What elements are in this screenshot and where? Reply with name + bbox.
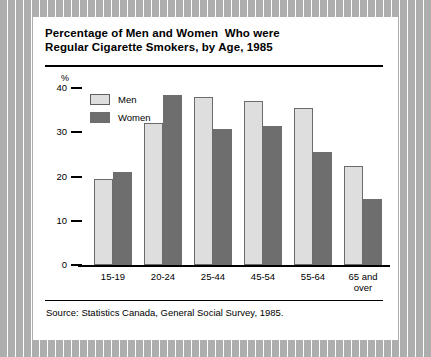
x-tick-label: 20-24 <box>135 271 191 282</box>
bars-layer <box>33 17 398 267</box>
legend: Men Women <box>90 91 151 127</box>
bar-men <box>294 108 313 265</box>
bar-women <box>113 172 132 265</box>
x-tick-label: 55-64 <box>285 271 341 282</box>
bar-men <box>94 179 113 265</box>
plot-area: 010203040 15-1920-2425-4445-5455-6465 an… <box>33 17 398 340</box>
bar-women <box>163 95 182 265</box>
source-note: Source: Statistics Canada, General Socia… <box>46 307 283 318</box>
chart-card: Percentage of Men and Women Who were Reg… <box>33 17 398 340</box>
bar-women <box>313 152 332 265</box>
legend-item-men: Men <box>90 91 151 107</box>
legend-swatch-women <box>90 112 110 123</box>
bar-women <box>213 129 232 265</box>
source-divider <box>45 300 383 301</box>
bar-men <box>344 166 363 265</box>
x-axis-baseline <box>78 265 390 267</box>
legend-swatch-men <box>90 94 110 105</box>
x-tick-label: 25-44 <box>185 271 241 282</box>
legend-label-women: Women <box>118 112 151 123</box>
figure-container: Percentage of Men and Women Who were Reg… <box>0 0 431 357</box>
bar-men <box>244 101 263 265</box>
x-tick-label: 65 andover <box>335 271 391 293</box>
bar-men <box>194 97 213 265</box>
bar-women <box>363 199 382 265</box>
x-tick-label: 45-54 <box>235 271 291 282</box>
bar-women <box>263 126 282 265</box>
legend-label-men: Men <box>118 94 136 105</box>
bar-men <box>144 123 163 265</box>
x-tick-label: 15-19 <box>85 271 141 282</box>
legend-item-women: Women <box>90 109 151 125</box>
